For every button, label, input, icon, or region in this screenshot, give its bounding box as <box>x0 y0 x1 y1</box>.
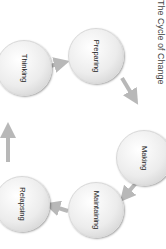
arrow-maintaining-to-relapsing <box>52 206 68 211</box>
node-preparing: Preparing <box>68 28 124 84</box>
arrow-making-to-maintaining <box>125 183 136 196</box>
arrow-preparing-to-making <box>122 78 134 98</box>
node-maintaining: Maintaining <box>68 182 124 238</box>
node-making: Making <box>116 130 166 186</box>
